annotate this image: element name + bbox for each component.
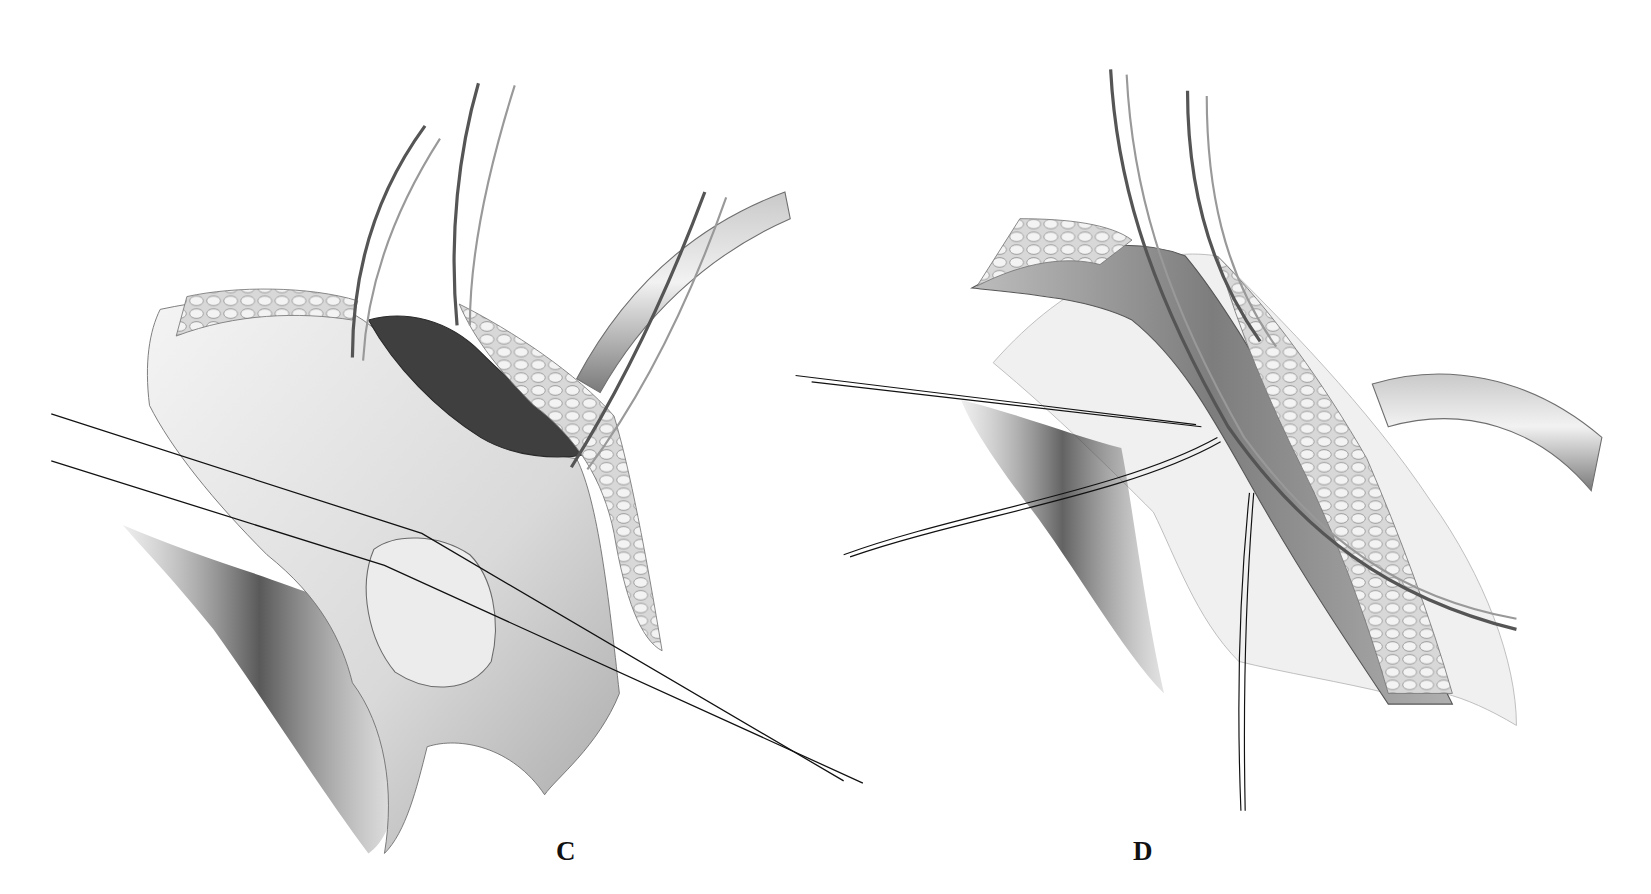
panel-c — [51, 83, 863, 853]
panel-label-c: C — [556, 836, 576, 867]
panel-label-d: D — [1133, 836, 1153, 867]
tube — [577, 192, 791, 393]
surgical-illustration — [0, 0, 1651, 894]
panel-d — [796, 69, 1602, 810]
hemostat-clamp-middle — [454, 83, 515, 325]
